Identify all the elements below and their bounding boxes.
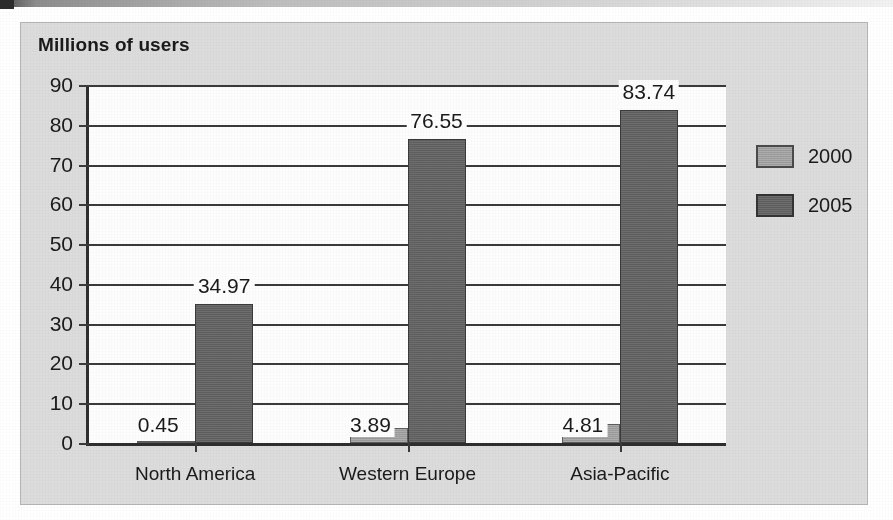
y-axis-tick	[79, 403, 89, 405]
legend-swatch-2005-icon	[756, 194, 794, 217]
bar-value-label: 3.89	[346, 413, 395, 437]
bar-2000-north-america[interactable]	[137, 441, 195, 443]
bar-value-label: 34.97	[194, 274, 255, 298]
y-axis-tick	[79, 443, 89, 445]
chart-figure-panel: Millions of users 0102030405060708090 0.…	[20, 22, 868, 505]
y-axis-tick	[79, 324, 89, 326]
y-axis-tick	[79, 85, 89, 87]
bar-2005-north-america[interactable]	[195, 304, 253, 443]
y-axis-tick-label: 40	[50, 272, 73, 296]
chart-legend: 2000 2005	[756, 145, 866, 243]
y-axis-tick-label: 50	[50, 232, 73, 256]
plot-area: 0102030405060708090 0.4534.973.8976.554.…	[86, 85, 726, 446]
x-axis-category-label: Western Europe	[339, 463, 476, 485]
chart-title: Millions of users	[38, 34, 190, 56]
x-axis-category-label: North America	[135, 463, 255, 485]
bar-value-label: 0.45	[134, 413, 183, 437]
y-axis-tick-label: 60	[50, 192, 73, 216]
y-axis-tick-label: 0	[61, 431, 73, 455]
y-axis-tick	[79, 284, 89, 286]
bar-value-label: 4.81	[558, 413, 607, 437]
legend-label-2005: 2005	[808, 194, 853, 217]
y-axis-tick-label: 30	[50, 312, 73, 336]
y-axis-tick-label: 90	[50, 73, 73, 97]
scan-edge-band	[0, 0, 893, 7]
scan-corner-mark	[0, 0, 14, 9]
y-axis-tick-label: 20	[50, 351, 73, 375]
y-axis-tick-label: 70	[50, 153, 73, 177]
x-axis-tick	[620, 443, 622, 452]
y-axis-tick	[79, 165, 89, 167]
x-axis-tick	[195, 443, 197, 452]
bar-2005-asia-pacific[interactable]	[620, 110, 678, 443]
legend-item-2000[interactable]: 2000	[756, 145, 866, 168]
y-axis-tick-label: 80	[50, 113, 73, 137]
x-axis-category-label: Asia-Pacific	[570, 463, 669, 485]
bar-value-label: 76.55	[406, 109, 467, 133]
legend-swatch-2000-icon	[756, 145, 794, 168]
bar-value-label: 83.74	[619, 80, 680, 104]
legend-label-2000: 2000	[808, 145, 853, 168]
y-axis-tick	[79, 363, 89, 365]
y-axis-tick-label: 10	[50, 391, 73, 415]
legend-item-2005[interactable]: 2005	[756, 194, 866, 217]
x-axis-tick	[408, 443, 410, 452]
bar-2005-western-europe[interactable]	[408, 139, 466, 443]
y-axis-tick	[79, 244, 89, 246]
y-axis-tick	[79, 204, 89, 206]
y-axis-tick	[79, 125, 89, 127]
